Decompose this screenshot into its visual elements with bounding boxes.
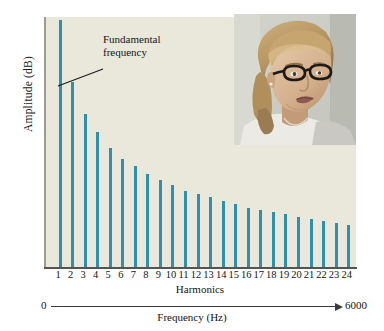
frequency-axis-line [51,306,339,307]
bar-harmonic-20 [297,217,300,268]
bar-harmonic-7 [134,166,137,268]
bar-harmonic-1 [59,20,62,268]
bar-harmonic-22 [322,221,325,268]
bar-harmonic-19 [284,214,287,268]
bar-harmonic-18 [272,212,275,268]
bar-harmonic-23 [335,223,338,268]
bar-harmonic-15 [234,204,237,268]
bar-harmonic-21 [310,219,313,268]
bar-harmonic-9 [159,180,162,268]
bar-harmonic-2 [71,82,74,268]
y-axis-label: Amplitude (dB) [22,4,34,184]
x-tick-label-24: 24 [339,269,355,280]
spectrum-figure: Amplitude (dB) Fundamentalfrequency [0,0,384,331]
bar-harmonic-11 [184,191,187,268]
bar-harmonic-8 [146,174,149,268]
frequency-axis-arrow-icon [335,303,343,311]
bar-harmonic-17 [259,210,262,268]
bar-harmonic-5 [109,148,112,268]
frequency-max-label: 6000 [345,299,367,311]
frequency-axis-label: Frequency (Hz) [0,311,384,323]
bar-harmonic-12 [197,194,200,268]
bar-harmonic-16 [247,208,250,268]
bar-harmonic-10 [171,185,174,268]
bar-harmonic-3 [84,114,87,268]
fundamental-frequency-annotation: Fundamentalfrequency [103,33,160,58]
annotation-line-2: frequency [103,46,147,58]
bar-harmonic-14 [222,201,225,268]
speaker-photo-inset [234,14,356,145]
bar-harmonic-13 [209,197,212,268]
x-axis-ticks: 123456789101112131415161718192021222324 [44,269,356,283]
bar-harmonic-4 [96,132,99,268]
frequency-min-label: 0 [41,299,47,311]
x-axis-label: Harmonics [44,283,356,295]
annotation-line-1: Fundamental [103,33,160,45]
bar-harmonic-6 [121,159,124,268]
bar-harmonic-24 [347,225,350,268]
speaker-portrait-illustration [234,14,356,145]
